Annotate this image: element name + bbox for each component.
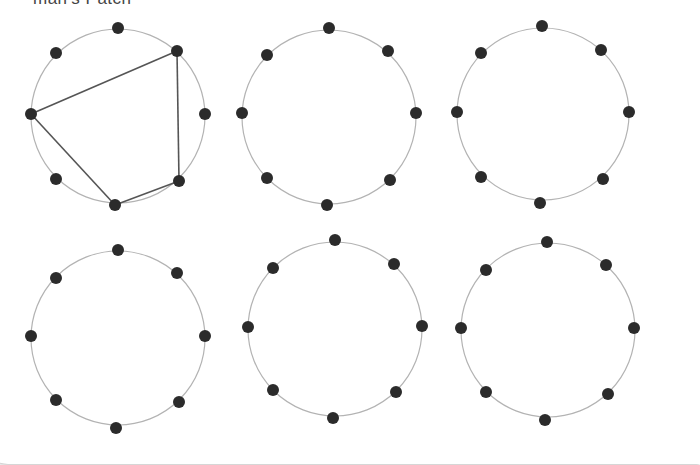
node-dot [109, 199, 121, 211]
node-dot [199, 330, 211, 342]
node-dot [267, 384, 279, 396]
node-dot [384, 174, 396, 186]
node-dot [480, 264, 492, 276]
node-dot [171, 45, 183, 57]
edge-line [177, 51, 179, 181]
edge-line [31, 51, 177, 114]
node-dot [475, 47, 487, 59]
node-dot [242, 321, 254, 333]
node-dot [480, 386, 492, 398]
node-dot [327, 412, 339, 424]
node-dot [597, 173, 609, 185]
node-dot [416, 320, 428, 332]
circle-2 [236, 22, 422, 211]
circle-4 [25, 244, 211, 434]
node-dot [475, 171, 487, 183]
node-dot [539, 414, 551, 426]
node-dot [451, 106, 463, 118]
node-dot [112, 244, 124, 256]
circle-1 [25, 22, 211, 211]
node-dot [382, 45, 394, 57]
node-dot [410, 107, 422, 119]
edge-line [115, 181, 179, 205]
node-dot [329, 234, 341, 246]
node-dot [602, 388, 614, 400]
node-dot [455, 322, 467, 334]
node-dot [323, 22, 335, 34]
node-dot [110, 422, 122, 434]
node-dot [171, 267, 183, 279]
node-dot [390, 386, 402, 398]
node-dot [199, 108, 211, 120]
node-dot [50, 272, 62, 284]
circle-5 [242, 234, 428, 424]
node-dot [261, 172, 273, 184]
edge-line [31, 114, 115, 205]
node-dot [595, 44, 607, 56]
node-dot [623, 106, 635, 118]
node-dot [173, 175, 185, 187]
node-dot [50, 173, 62, 185]
node-dot [267, 262, 279, 274]
node-dot [261, 49, 273, 61]
node-dot [388, 258, 400, 270]
node-dot [628, 322, 640, 334]
node-dot [600, 259, 612, 271]
node-dot [50, 47, 62, 59]
node-dot [541, 236, 553, 248]
circle-3 [451, 20, 635, 209]
node-dot [50, 394, 62, 406]
circle-6 [455, 236, 640, 426]
node-dot [112, 22, 124, 34]
node-dot [236, 107, 248, 119]
node-dot [321, 199, 333, 211]
node-dot [25, 330, 37, 342]
node-dot [25, 108, 37, 120]
node-dot [534, 197, 546, 209]
node-dot [536, 20, 548, 32]
node-dot [173, 396, 185, 408]
